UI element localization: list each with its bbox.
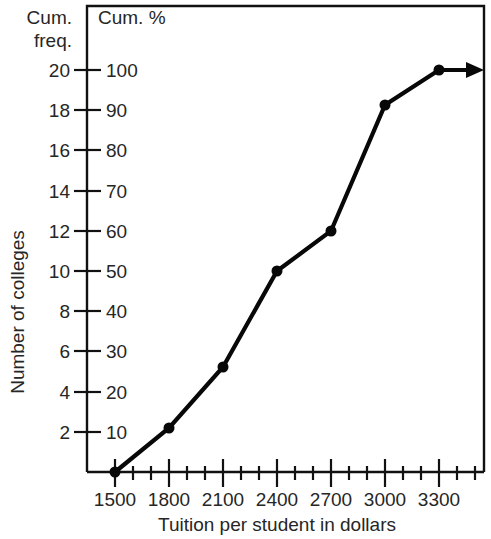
y-left-tick-label: 20 [49,60,70,81]
y-left-tick-label: 10 [49,261,70,282]
data-series-cumulative-frequency [110,62,485,478]
y-right-tick-label: 80 [106,140,127,161]
y-right-tick-label: 70 [106,181,127,202]
data-point [434,65,445,76]
y-right-tick-label: 90 [106,100,127,121]
y-left-tick-label: 8 [59,301,70,322]
y-right-tick-label: 10 [106,422,127,443]
x-tick-label: 1800 [148,489,190,510]
left-axis-header-line2: freq. [34,30,72,51]
y-right-tick-label: 30 [106,341,127,362]
y-left-tick-label: 6 [59,341,70,362]
x-tick-label: 2100 [202,489,244,510]
left-axis-header-line1: Cum. [27,7,72,28]
x-tick-label: 3000 [364,489,406,510]
y-axis-left-labels: 20 18 16 14 12 10 8 6 4 2 [49,60,71,443]
end-arrow-icon [439,62,484,78]
y-left-tick-label: 2 [59,422,70,443]
data-point [380,100,391,111]
plot-frame [87,6,484,472]
y-left-tick-label: 4 [59,382,70,403]
y-left-tick-label: 16 [49,140,70,161]
frame-box [87,6,484,472]
y-right-tick-label: 40 [106,301,127,322]
data-point [164,423,175,434]
ogive-chart: Cum. freq. Cum. % 20 18 16 14 12 10 8 6 … [0,0,491,539]
x-tick-label: 2400 [256,489,298,510]
x-axis-labels: 1500 1800 2100 2400 2700 3000 3300 [94,489,460,510]
y-left-tick-label: 18 [49,100,70,121]
chart-canvas: Cum. freq. Cum. % 20 18 16 14 12 10 8 6 … [0,0,491,539]
data-point [218,362,229,373]
y-axis-right-labels: 100 90 80 70 60 50 40 30 20 10 [106,60,138,443]
y-right-tick-label: 20 [106,382,127,403]
data-point [110,467,121,478]
data-point [326,226,337,237]
x-tick-marks [115,459,475,487]
y-left-tick-label: 12 [49,221,70,242]
data-point [272,266,283,277]
y-right-tick-label: 50 [106,261,127,282]
y-left-tick-label: 14 [49,181,71,202]
y-right-tick-label: 100 [106,60,138,81]
x-tick-label: 1500 [94,489,136,510]
y-axis-title: Number of colleges [7,230,28,394]
x-tick-label: 2700 [310,489,352,510]
right-axis-header: Cum. % [98,7,166,28]
x-tick-label: 3300 [418,489,460,510]
y-right-tick-label: 60 [106,221,127,242]
x-axis-title: Tuition per student in dollars [158,514,396,535]
data-point-markers [110,65,445,478]
